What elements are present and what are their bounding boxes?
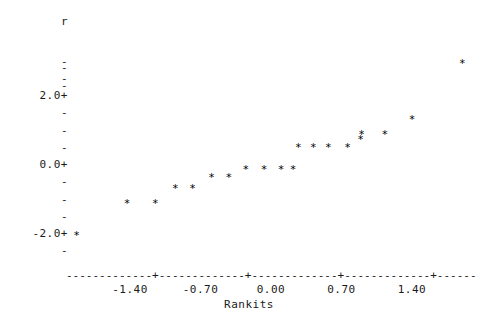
data-point-marker: *: [207, 172, 216, 183]
y-axis-title: r: [0, 16, 68, 27]
data-point-marker: *: [277, 164, 286, 175]
x-axis-tick-label: 1.40: [382, 284, 442, 295]
x-axis-tick-label: -1.40: [100, 284, 160, 295]
data-point-marker: *: [289, 164, 298, 175]
data-point-marker: *: [324, 142, 333, 153]
y-axis-tick-mark: -: [0, 211, 68, 222]
data-point-marker: *: [241, 164, 250, 175]
data-point-marker: *: [122, 198, 131, 209]
y-axis-tick-mark: -: [0, 194, 68, 205]
y-axis-tick-mark: -: [0, 142, 68, 153]
data-point-marker: *: [407, 114, 416, 125]
x-axis-tick-label: 0.70: [311, 284, 371, 295]
data-point-marker: *: [356, 134, 365, 145]
data-point-marker: *: [343, 142, 352, 153]
y-axis-tick-mark: -: [0, 107, 68, 118]
data-point-marker: *: [458, 58, 467, 69]
x-axis-line: -------------+-------------+------------…: [66, 270, 476, 282]
y-axis-tick-label: 0.0+: [0, 159, 68, 170]
data-point-marker: *: [380, 129, 389, 140]
data-point-marker: *: [72, 230, 81, 241]
data-point-marker: *: [294, 142, 303, 153]
data-point-marker: *: [259, 164, 268, 175]
data-point-marker: *: [224, 172, 233, 183]
y-axis-tick-mark: -: [0, 62, 68, 73]
y-axis-tick-mark: -: [0, 125, 68, 136]
y-axis-tick-label: -2.0+: [0, 228, 68, 239]
y-axis-tick-mark: -: [0, 245, 68, 256]
data-point-marker: *: [309, 142, 318, 153]
y-axis-tick-label: 2.0+: [0, 90, 68, 101]
data-point-marker: *: [151, 198, 160, 209]
y-axis-tick-mark: -: [0, 176, 68, 187]
x-axis-title: Rankits: [0, 299, 498, 310]
x-axis-tick-label: -0.70: [171, 284, 231, 295]
x-axis-tick-label: 0.00: [241, 284, 301, 295]
data-point-marker: *: [188, 183, 197, 194]
normal-probability-plot: r ----2.0+---0.0+----2.0+- -------------…: [0, 0, 498, 322]
data-point-marker: *: [357, 129, 366, 140]
data-point-marker: *: [171, 183, 180, 194]
